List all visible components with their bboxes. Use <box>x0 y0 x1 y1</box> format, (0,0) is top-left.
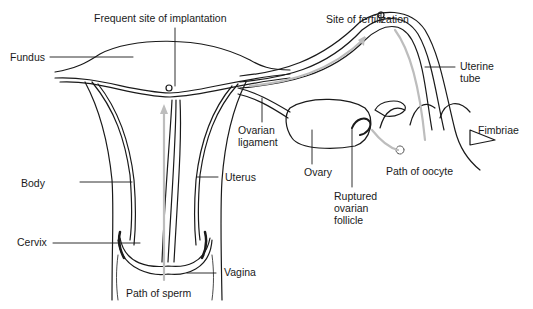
implantation-site-marker <box>166 85 172 91</box>
label-ruptured-ovarian-follicle: Ruptured ovarian follicle <box>334 190 377 226</box>
reproductive-tract-diagram: Frequent site of implantation Site of fe… <box>0 0 533 309</box>
ovarian-ligament <box>238 88 290 112</box>
label-frequent-site-of-implantation: Frequent site of implantation <box>94 12 227 24</box>
label-fundus: Fundus <box>10 51 45 63</box>
label-fimbriae: Fimbriae <box>478 124 519 136</box>
label-path-of-oocyte: Path of oocyte <box>386 165 453 177</box>
anatomy-drawing <box>0 0 533 309</box>
label-path-of-sperm: Path of sperm <box>126 287 191 299</box>
label-uterus: Uterus <box>225 171 256 183</box>
label-ovarian-ligament: Ovarian ligament <box>238 124 278 148</box>
uterus-left-outer <box>85 82 113 300</box>
label-site-of-fertilization: Site of fertilization <box>326 13 409 25</box>
oocyte-path-arrow <box>372 130 398 150</box>
label-ovary: Ovary <box>304 166 332 178</box>
label-vagina: Vagina <box>224 266 256 278</box>
ovary-outline <box>286 99 371 148</box>
label-body: Body <box>21 177 45 189</box>
label-uterine-tube: Uterine tube <box>460 60 494 84</box>
label-cervix: Cervix <box>17 236 47 248</box>
